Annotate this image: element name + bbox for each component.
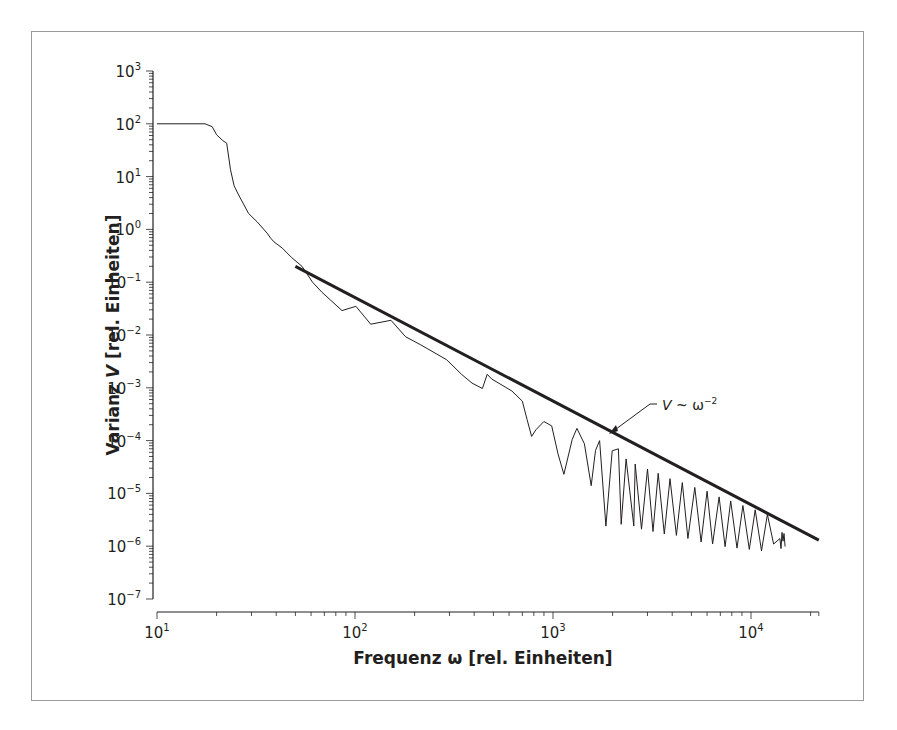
chart: 10310210110010−110−210−310−410−510−610−7…: [0, 0, 897, 730]
y-axis-title: Varianz V [rel. Einheiten]: [103, 215, 123, 456]
y-tick-label: 10−7: [107, 589, 141, 609]
x-tick-label: 101: [144, 622, 169, 642]
x-axis-title: Frequenz ω [rel. Einheiten]: [353, 648, 612, 668]
series-measured-line: [157, 124, 785, 551]
y-tick-label: 103: [116, 61, 141, 81]
x-tick-label: 104: [738, 622, 763, 642]
x-tick-label: 102: [342, 622, 367, 642]
x-axis: 101102103104: [144, 612, 819, 642]
annotation-arrow: [612, 404, 657, 432]
x-tick-label: 103: [540, 622, 565, 642]
annotation-label: V ~ ω−2: [662, 396, 717, 413]
series-fit-line: [295, 266, 818, 540]
y-tick-label: 101: [116, 167, 141, 187]
y-tick-label: 102: [116, 114, 141, 134]
y-tick-label: 10−5: [107, 483, 141, 503]
plot-area: [157, 124, 819, 551]
y-tick-label: 10−6: [107, 536, 141, 556]
